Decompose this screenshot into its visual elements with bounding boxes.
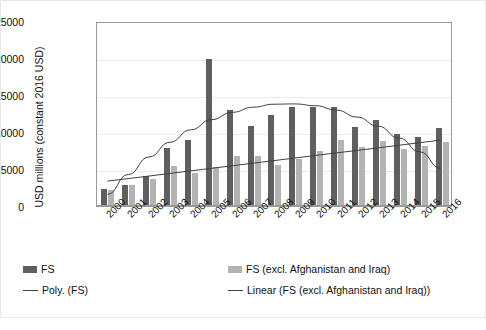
legend-label-linear: Linear (FS (excl. Afghanistan and Iraq)) — [247, 284, 430, 296]
chart-container: USD millions (constant 2016 USD) 0500010… — [0, 0, 486, 318]
legend-item-linear: Linear (FS (excl. Afghanistan and Iraq)) — [228, 284, 430, 296]
legend-item-fs-excl: FS (excl. Afghanistan and Iraq) — [228, 263, 390, 275]
legend-swatch-bar-light-icon — [228, 266, 242, 273]
legend-label-poly: Poly. (FS) — [42, 284, 88, 296]
chart-legend: FS FS (excl. Afghanistan and Iraq) Poly.… — [23, 263, 463, 307]
legend-label-fs: FS — [41, 263, 54, 275]
legend-swatch-line-linear-icon — [228, 287, 243, 294]
y-tick-label: 10000 — [0, 127, 24, 139]
legend-swatch-line-poly-icon — [23, 287, 38, 294]
legend-item-poly: Poly. (FS) — [23, 284, 88, 296]
legend-label-fs-excl: FS (excl. Afghanistan and Iraq) — [246, 263, 390, 275]
legend-swatch-bar-dark-icon — [23, 266, 37, 273]
y-tick-label: 15000 — [0, 90, 24, 102]
y-axis-title: USD millions (constant 2016 USD) — [33, 27, 45, 227]
plot-area — [96, 22, 452, 207]
legend-item-fs: FS — [23, 263, 54, 275]
trendline-layer — [97, 23, 451, 206]
y-tick-label: 20000 — [0, 53, 24, 65]
poly-trendline — [107, 104, 440, 194]
y-tick-label: 0 — [0, 201, 24, 213]
linear-trendline — [107, 140, 440, 181]
y-tick-label: 5000 — [0, 164, 24, 176]
y-tick-label: 25000 — [0, 16, 24, 28]
